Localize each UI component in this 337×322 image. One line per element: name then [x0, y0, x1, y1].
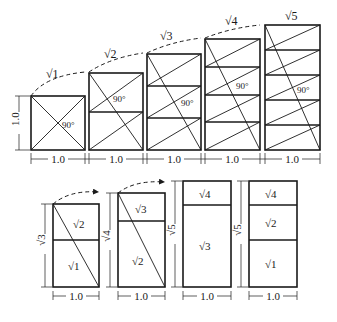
- svg-text:1.0: 1.0: [167, 153, 181, 165]
- svg-text:√1: √1: [265, 258, 277, 270]
- bottom-rect-root-5a: √4 √3 √5 1.0: [165, 181, 231, 302]
- bottom-rect-root-4: √3 √2 √4 1.0: [100, 182, 165, 302]
- height-label: 1.0: [9, 112, 21, 126]
- svg-text:√2: √2: [132, 255, 144, 267]
- svg-text:1.0: 1.0: [134, 290, 148, 302]
- root-rectangles-diagram: √1 90° √2 90° √3 90° √4 90°: [0, 0, 337, 322]
- svg-text:√4: √4: [199, 188, 211, 200]
- svg-text:1.0: 1.0: [69, 290, 83, 302]
- svg-text:√2: √2: [73, 218, 85, 230]
- width-dimensions-top: 1.0 1.0 1.0 1.0 1.0: [31, 153, 320, 165]
- rect1-angle: 90°: [62, 120, 75, 130]
- svg-text:√3: √3: [135, 203, 147, 215]
- svg-text:1.0: 1.0: [109, 153, 123, 165]
- svg-text:√4: √4: [100, 230, 112, 242]
- rect4-angle: 90°: [236, 81, 249, 91]
- svg-text:1.0: 1.0: [225, 153, 239, 165]
- growth-arc: [31, 25, 260, 96]
- height-dimension: 1.0: [9, 96, 30, 150]
- rect5-label: √5: [285, 9, 298, 23]
- svg-text:1.0: 1.0: [266, 290, 280, 302]
- rect-root-3: √3 90°: [147, 29, 201, 150]
- bottom-rect-root-3: √2 √1 √3 1.0: [35, 192, 99, 302]
- rect1-label: √1: [46, 67, 59, 81]
- svg-text:1.0: 1.0: [285, 153, 299, 165]
- rect-root-2: √2 90°: [89, 47, 143, 150]
- svg-text:√3: √3: [35, 234, 47, 246]
- rect-root-1: √1 90°: [31, 67, 85, 150]
- svg-text:√2: √2: [265, 217, 277, 229]
- svg-text:1.0: 1.0: [200, 290, 214, 302]
- rect5-angle: 90°: [297, 85, 310, 95]
- rect2-angle: 90°: [113, 94, 126, 104]
- svg-text:√3: √3: [199, 240, 211, 252]
- bottom-rect-root-5b: √4 √2 √1 √5 1.0: [231, 181, 297, 302]
- svg-text:1.0: 1.0: [51, 153, 65, 165]
- svg-text:√5: √5: [165, 224, 177, 236]
- rect4-label: √4: [225, 14, 238, 28]
- svg-text:√5: √5: [231, 224, 243, 236]
- rect3-label: √3: [160, 29, 173, 43]
- rect-root-4: √4 90°: [205, 14, 260, 150]
- rect2-label: √2: [104, 47, 117, 61]
- rect3-angle: 90°: [181, 98, 194, 108]
- rect-root-5: √5 90°: [265, 9, 320, 150]
- svg-text:√4: √4: [265, 188, 277, 200]
- svg-text:√1: √1: [68, 260, 80, 272]
